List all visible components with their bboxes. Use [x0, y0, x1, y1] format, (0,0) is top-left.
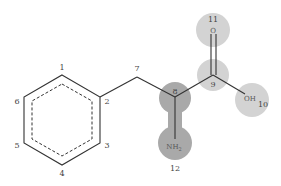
- label-atom-2: 2: [104, 97, 109, 106]
- label-atom-11: 11: [208, 15, 218, 24]
- bond-2-7: [100, 77, 137, 97]
- carbonyl-oxygen-label: O: [210, 27, 216, 35]
- label-atom-3: 3: [104, 141, 109, 150]
- label-atom-12: 12: [170, 164, 180, 173]
- aromatic-ring-dashed: [32, 84, 92, 156]
- amine-subscript: 2: [179, 146, 182, 152]
- label-atom-1: 1: [59, 63, 64, 72]
- label-atom-4: 4: [59, 169, 64, 178]
- label-atom-7: 7: [134, 64, 139, 73]
- label-atom-5: 5: [14, 141, 19, 150]
- label-atom-10: 10: [258, 100, 268, 109]
- amine-main: NH: [166, 143, 178, 151]
- label-atom-9: 9: [210, 80, 215, 89]
- label-atom-6: 6: [14, 97, 19, 106]
- molecule-diagram: 1 2 3 4 5 6 7 8 9 10 11 12 O OH NH2: [0, 0, 281, 186]
- hydroxyl-label: OH: [244, 95, 256, 103]
- label-atom-8: 8: [172, 87, 177, 96]
- benzene-ring: [24, 75, 100, 165]
